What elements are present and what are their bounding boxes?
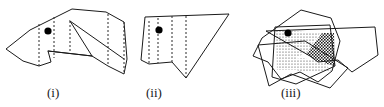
panel-ii-point-marker: [155, 26, 162, 33]
panel-iii: [253, 10, 378, 88]
panel-iii-caption: (iii): [281, 86, 301, 99]
panel-i: [6, 9, 127, 74]
panel-iii-point-marker: [284, 29, 291, 36]
panel-i-outline: [6, 9, 127, 74]
panel-ii-caption: (ii): [146, 86, 162, 99]
panel-i-caption: (i): [47, 86, 59, 99]
panel-ii: [141, 14, 229, 78]
panel-ii-outline: [141, 14, 229, 78]
panel-i-point-marker: [44, 27, 51, 34]
figure-container: (i) (ii) (iii): [0, 0, 384, 107]
